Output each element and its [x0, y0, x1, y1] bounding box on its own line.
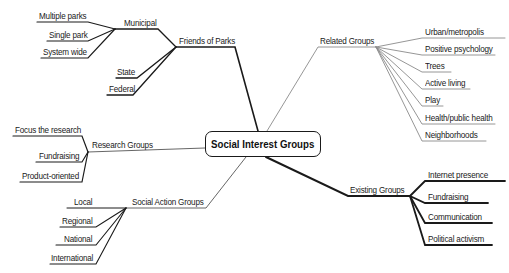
social-action-groups-connectors: [50, 157, 246, 264]
node-national[interactable]: National: [64, 234, 92, 244]
node-system-wide[interactable]: System wide: [43, 47, 87, 57]
node-international[interactable]: International: [51, 253, 93, 263]
node-regional[interactable]: Regional: [62, 216, 93, 226]
node-multiple-parks[interactable]: Multiple parks: [39, 11, 86, 21]
node-urban-metropolis[interactable]: Urban/metropolis: [425, 27, 484, 37]
node-neighborhoods[interactable]: Neighborhoods: [425, 130, 478, 140]
central-topic-label: Social Interest Groups: [211, 138, 314, 150]
node-state[interactable]: State: [117, 67, 135, 77]
node-federal[interactable]: Federal: [109, 84, 135, 94]
node-municipal[interactable]: Municipal: [124, 18, 157, 28]
central-topic-node[interactable]: Social Interest Groups: [205, 131, 321, 157]
node-related-groups[interactable]: Related Groups: [320, 36, 374, 46]
node-internet-presence[interactable]: Internet presence: [428, 170, 488, 180]
node-local[interactable]: Local: [74, 197, 92, 207]
node-existing-fundraising[interactable]: Fundraising: [428, 192, 468, 202]
node-trees[interactable]: Trees: [425, 61, 445, 71]
node-communication[interactable]: Communication: [428, 212, 482, 222]
node-social-action-groups[interactable]: Social Action Groups: [132, 197, 204, 207]
node-positive-psychology[interactable]: Positive psychology: [425, 44, 493, 54]
node-play[interactable]: Play: [425, 95, 440, 105]
node-existing-groups[interactable]: Existing Groups: [350, 185, 404, 195]
node-focus-the-research[interactable]: Focus the research: [15, 125, 81, 135]
node-single-park[interactable]: Single park: [49, 30, 88, 40]
node-health-public-health[interactable]: Health/public health: [425, 113, 493, 123]
node-research-groups[interactable]: Research Groups: [92, 140, 153, 150]
node-friends-of-parks[interactable]: Friends of Parks: [179, 36, 235, 46]
node-product-oriented[interactable]: Product-oriented: [22, 171, 79, 181]
node-active-living[interactable]: Active living: [425, 78, 465, 88]
node-political-activism[interactable]: Political activism: [428, 234, 484, 244]
node-research-fundraising[interactable]: Fundraising: [39, 151, 79, 161]
